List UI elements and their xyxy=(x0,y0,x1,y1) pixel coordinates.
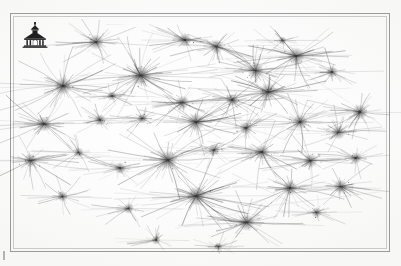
starburst-cluster xyxy=(135,219,177,261)
institutional-building-emblem-icon xyxy=(21,22,49,48)
cluster-caption: —— –– – xyxy=(139,209,150,211)
starburst-cluster xyxy=(39,173,86,220)
cluster-caption: –– – xyxy=(57,125,62,127)
cluster-caption: ––– –– xyxy=(236,232,244,234)
starburst-cluster xyxy=(293,189,340,236)
cluster-caption: —— –– – xyxy=(168,115,179,117)
cluster-caption: –– – xyxy=(165,241,170,243)
scanned-plate-page: ——— –– –– –––– –– –—— –– –––– ––– –———— … xyxy=(0,0,401,266)
cluster-caption: ––– xyxy=(109,122,113,124)
starburst-cluster xyxy=(91,75,133,117)
cluster-caption: –– – xyxy=(43,161,48,163)
starburst-cluster xyxy=(200,228,237,265)
starburst-cluster xyxy=(264,22,301,59)
registration-tick-mark xyxy=(3,251,5,260)
cluster-caption: ——— –– –– –– xyxy=(106,24,126,26)
